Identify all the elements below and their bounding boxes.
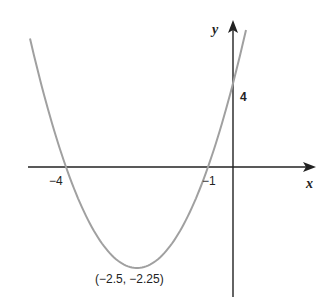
vertex-label: (−2.5, −2.25) [95,272,164,286]
x-tick-label-minus-1: −1 [202,174,216,188]
graph-canvas [0,0,330,300]
parabola-diagram: y x −4 −1 4 (−2.5, −2.25) [0,0,330,300]
x-tick-label-minus-4: −4 [49,174,63,188]
y-axis-label: y [212,22,218,38]
y-intercept-label: 4 [240,90,247,104]
x-axis-label: x [306,176,313,192]
parabola-curve [30,30,246,268]
